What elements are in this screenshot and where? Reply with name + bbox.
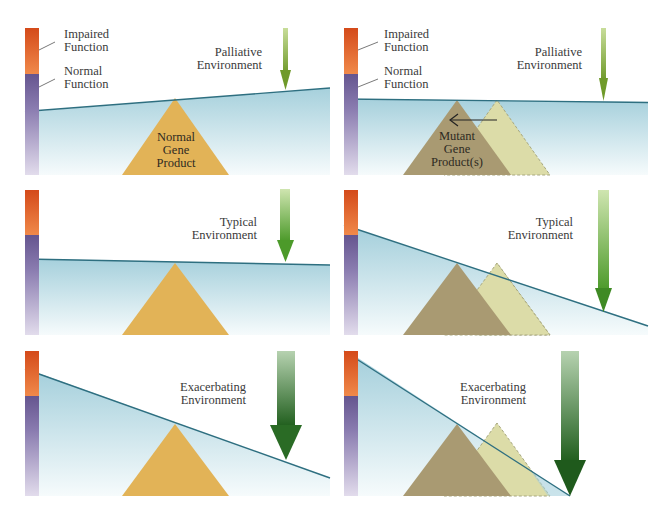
impaired-leader-line xyxy=(358,42,378,50)
environment-arrow-icon xyxy=(599,28,608,101)
environment-arrow-icon xyxy=(554,351,586,496)
panel-exacerbating-mutant: ExacerbatingEnvironment xyxy=(344,351,586,496)
normal-leader-line xyxy=(358,79,378,87)
normal-function-label: NormalFunction xyxy=(64,64,109,91)
function-scale-bar xyxy=(344,351,358,496)
environment-label: ExacerbatingEnvironment xyxy=(460,380,527,407)
panel-exacerbating-normal: ExacerbatingEnvironment xyxy=(25,351,330,496)
function-scale-bar xyxy=(344,190,358,335)
environment-label: TypicalEnvironment xyxy=(192,215,258,242)
impaired-function-label: ImpairedFunction xyxy=(64,27,110,54)
normal-leader-line xyxy=(39,79,55,87)
environment-arrow-icon xyxy=(277,189,294,262)
environment-label: PalliativeEnvironment xyxy=(517,45,583,72)
function-scale-bar xyxy=(25,351,39,496)
function-scale-bar xyxy=(25,28,39,175)
normal-function-label: NormalFunction xyxy=(384,64,429,91)
function-scale-bar xyxy=(344,28,358,175)
impaired-leader-line xyxy=(39,42,55,50)
environment-arrow-icon xyxy=(270,351,302,460)
environment-arrow-icon xyxy=(595,190,612,312)
panel-typical-mutant: TypicalEnvironment xyxy=(344,190,648,335)
panel-palliative-normal: ImpairedFunction NormalFunction Palliati… xyxy=(25,27,330,175)
panel-palliative-mutant: ImpairedFunction NormalFunction Palliati… xyxy=(344,27,648,175)
environment-label: ExacerbatingEnvironment xyxy=(180,380,247,407)
panel-typical-normal: TypicalEnvironment xyxy=(25,189,330,335)
environment-arrow-icon xyxy=(280,28,291,90)
function-scale-bar xyxy=(25,190,39,335)
impaired-function-label: ImpairedFunction xyxy=(384,27,430,54)
gene-environment-diagram: ImpairedFunction NormalFunction Palliati… xyxy=(0,0,668,509)
environment-label: TypicalEnvironment xyxy=(508,215,574,242)
environment-label: PalliativeEnvironment xyxy=(197,45,263,72)
